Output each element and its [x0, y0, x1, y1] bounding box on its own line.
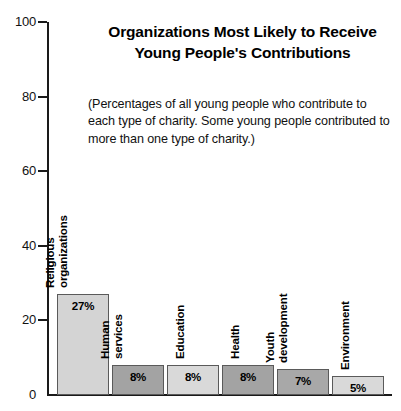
bar-group[interactable]: 7%Youthdevelopment — [277, 259, 329, 395]
plot-area: 27%Religiousorganizations8%Humanservices… — [0, 0, 401, 411]
bar-category-label-line: Health — [228, 325, 241, 359]
bar-category-label: Environment — [338, 301, 351, 370]
bar-category-label-line: development — [276, 294, 289, 363]
bar-value-label: 7% — [277, 376, 329, 388]
bar-chart: Organizations Most Likely to Receive You… — [0, 0, 401, 411]
bar-category-label: Education — [173, 305, 186, 359]
bar-category-label-line: services — [111, 314, 124, 359]
bar-category-label-line: Education — [173, 305, 186, 359]
bar-category-label: Religiousorganizations — [43, 215, 69, 288]
bar-group[interactable]: 8%Education — [167, 255, 219, 395]
bar-category-label: Youthdevelopment — [263, 294, 289, 363]
bar-value-label: 8% — [222, 372, 274, 384]
bar-group[interactable]: 5%Environment — [332, 266, 384, 395]
bar-category-label-line: Youth — [263, 294, 276, 363]
bar-category-label-line: Environment — [338, 301, 351, 370]
bar-category-label-line: Religious — [43, 215, 56, 288]
bar-value-label: 27% — [57, 301, 109, 313]
bar-value-label: 5% — [332, 383, 384, 395]
bar-value-label: 8% — [112, 372, 164, 384]
bar-category-label-line: Human — [98, 314, 111, 359]
bar-group[interactable]: 27%Religiousorganizations — [57, 184, 109, 395]
bar-value-label: 8% — [167, 372, 219, 384]
bar-group[interactable]: 8%Humanservices — [112, 255, 164, 395]
bar-category-label-line: organizations — [56, 215, 69, 288]
bar-category-label: Humanservices — [98, 314, 124, 359]
bar-category-label: Health — [228, 325, 241, 359]
